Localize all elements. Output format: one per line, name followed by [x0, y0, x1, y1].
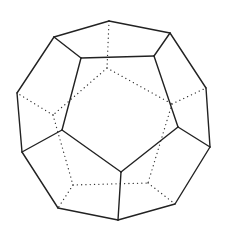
visible-edge — [62, 130, 121, 172]
visible-edges-group — [17, 21, 210, 220]
hidden-edge — [107, 21, 109, 68]
hidden-edge — [17, 93, 53, 115]
visible-edge — [170, 33, 206, 88]
visible-edge — [121, 127, 178, 172]
visible-edge — [22, 152, 58, 208]
visible-edge — [154, 33, 170, 56]
dodecahedron-diagram — [0, 0, 235, 227]
visible-edge — [206, 88, 210, 147]
visible-edge — [178, 127, 210, 147]
visible-edge — [175, 147, 210, 204]
visible-edge — [109, 21, 170, 33]
hidden-edge — [107, 68, 172, 104]
visible-edge — [17, 93, 22, 152]
visible-edge — [118, 204, 175, 220]
hidden-edge — [172, 88, 206, 104]
visible-edge — [54, 21, 109, 37]
hidden-edge — [53, 68, 107, 115]
visible-edge — [118, 172, 121, 220]
hidden-edge — [148, 183, 175, 204]
visible-edge — [54, 37, 81, 58]
hidden-edge — [73, 183, 148, 185]
visible-edge — [58, 208, 118, 220]
visible-edge — [81, 56, 154, 58]
hidden-edge — [148, 104, 172, 183]
visible-edge — [154, 56, 178, 127]
visible-edge — [17, 37, 54, 93]
visible-edge — [62, 58, 81, 130]
visible-edge — [22, 130, 62, 152]
hidden-edge — [58, 185, 73, 208]
